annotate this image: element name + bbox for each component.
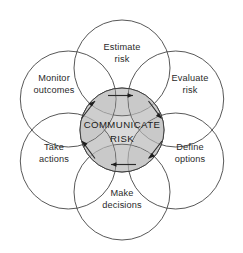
petal-label-estimate-risk-line2: risk	[115, 54, 130, 64]
petal-label-monitor-outcomes-line2: outcomes	[33, 85, 74, 95]
center-label-line2: RISK	[110, 133, 134, 144]
petal-label-make-decisions-line2: decisions	[102, 200, 142, 210]
petal-label-evaluate-risk-line1: Evaluate	[172, 73, 209, 83]
petal-label-take-actions-line2: actions	[39, 154, 69, 164]
petal-label-monitor-outcomes-line1: Monitor	[38, 73, 70, 83]
risk-cycle-svg: Estimate risk Evaluate risk Define optio…	[0, 0, 243, 253]
petal-label-define-options-line2: options	[175, 154, 206, 164]
center-label-line1: COMMUNICATE	[84, 119, 161, 130]
petal-label-make-decisions-line1: Make	[110, 188, 133, 198]
petal-label-evaluate-risk-line2: risk	[183, 85, 198, 95]
petal-label-take-actions-line1: Take	[44, 142, 64, 152]
petal-label-define-options-line1: Define	[176, 142, 203, 152]
risk-cycle-diagram: Estimate risk Evaluate risk Define optio…	[0, 0, 243, 253]
petal-label-estimate-risk-line1: Estimate	[104, 42, 141, 52]
